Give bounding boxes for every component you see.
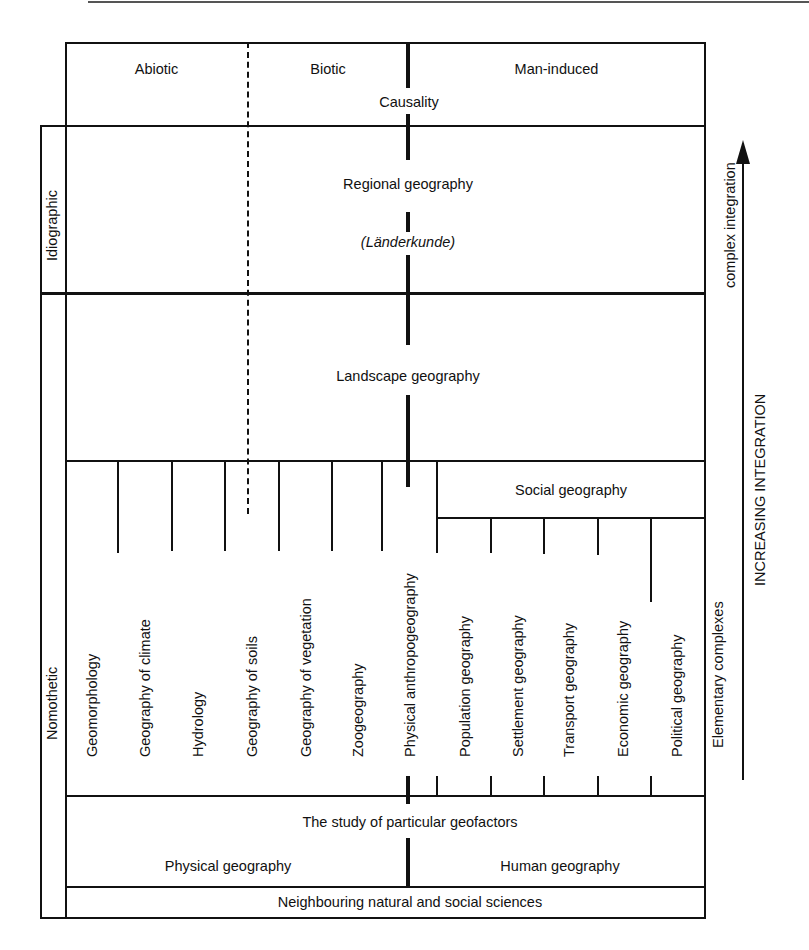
integration-arrow-icon [0, 0, 809, 950]
